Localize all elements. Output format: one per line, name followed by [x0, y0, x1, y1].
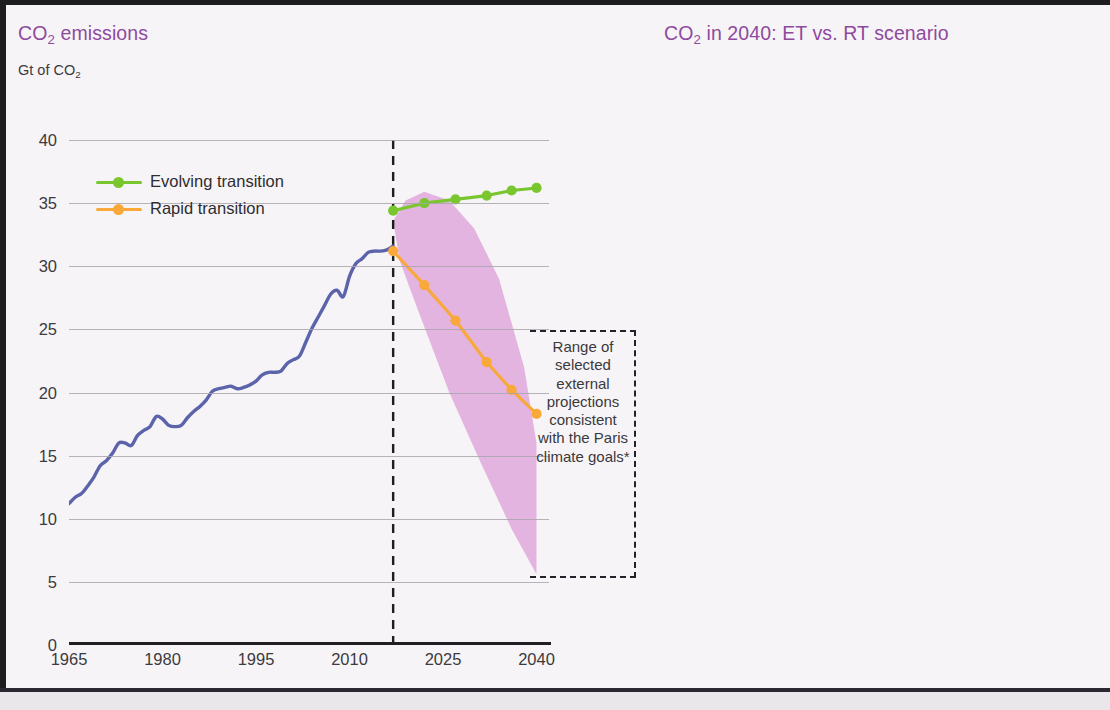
left-chart-panel: CO2 emissions Gt of CO2 0510152025303540… [6, 0, 630, 688]
left-y-tick-label-40: 40 [23, 131, 57, 150]
right-title-co: CO [664, 22, 693, 44]
legend-dot-swatch [113, 204, 124, 215]
left-gridline-10 [69, 519, 549, 520]
left-y-tick-label-15: 15 [23, 446, 57, 465]
left-y-tick-label-30: 30 [23, 257, 57, 276]
left-x-tick-label-2010: 2010 [331, 650, 368, 669]
paris-range-annotation-text: Range of selected external projections c… [536, 338, 630, 466]
left-x-axis-line [69, 642, 551, 645]
left-gridline-20 [69, 393, 549, 394]
series-marker-evolving-transition-2036 [507, 185, 517, 195]
legend-item-label: Evolving transition [150, 172, 284, 191]
paris-range-annotation-box: Range of selected external projections c… [530, 330, 636, 578]
left-y-tick-label-35: 35 [23, 194, 57, 213]
series-marker-rapid-transition-2027 [450, 315, 460, 325]
left-axis-unit-label: Gt of CO2 [18, 62, 81, 78]
figure-root: CO2 emissions Gt of CO2 0510152025303540… [0, 0, 1110, 710]
series-marker-rapid-transition-2036 [507, 385, 517, 395]
left-y-tick-label-20: 20 [23, 383, 57, 402]
right-title-subscript: 2 [693, 32, 700, 47]
right-chart-panel: CO2 in 2040: ET vs. RT scenario 05101520… [630, 0, 1110, 688]
series-marker-rapid-transition-2032 [482, 357, 492, 367]
legend-dot-swatch [113, 177, 124, 188]
legend-marker-icon-0 [96, 176, 142, 188]
right-title-tail: in 2040: ET vs. RT scenario [701, 22, 949, 44]
left-y-tick-label-5: 5 [23, 572, 57, 591]
left-gridline-25 [69, 329, 549, 330]
left-title-subscript: 2 [47, 32, 54, 47]
left-gridline-40 [69, 140, 549, 141]
series-marker-rapid-transition-2017 [388, 246, 398, 256]
legend-item-rapid-transition[interactable]: Rapid transition [96, 195, 284, 222]
legend-marker-icon-1 [96, 203, 142, 215]
left-x-tick-label-1965: 1965 [51, 650, 88, 669]
series-line-history [69, 246, 393, 504]
left-y-tick-label-10: 10 [23, 509, 57, 528]
left-y-tick-label-25: 25 [23, 320, 57, 339]
left-chart-legend: Evolving transitionRapid transition [96, 168, 284, 222]
legend-item-evolving-transition[interactable]: Evolving transition [96, 168, 284, 195]
unit-subscript: 2 [75, 69, 80, 80]
left-x-tick-label-2040: 2040 [518, 650, 555, 669]
right-panel-title: CO2 in 2040: ET vs. RT scenario [664, 22, 949, 45]
series-marker-evolving-transition-2017 [388, 206, 398, 216]
unit-gt-of-co: Gt of CO [18, 62, 75, 78]
left-title-tail: emissions [55, 22, 148, 44]
series-marker-evolving-transition-2040 [531, 183, 541, 193]
left-x-tick-label-1980: 1980 [144, 650, 181, 669]
left-gridline-30 [69, 266, 549, 267]
left-panel-title: CO2 emissions [18, 22, 148, 45]
left-title-co: CO [18, 22, 47, 44]
page-margin-strip [0, 692, 1110, 710]
left-x-tick-label-2025: 2025 [425, 650, 462, 669]
left-x-tick-label-1995: 1995 [238, 650, 275, 669]
series-marker-evolving-transition-2032 [482, 190, 492, 200]
paris-range-band [393, 192, 536, 575]
series-marker-rapid-transition-2022 [419, 280, 429, 290]
left-gridline-5 [69, 582, 549, 583]
legend-item-label: Rapid transition [150, 199, 265, 218]
left-gridline-15 [69, 456, 549, 457]
